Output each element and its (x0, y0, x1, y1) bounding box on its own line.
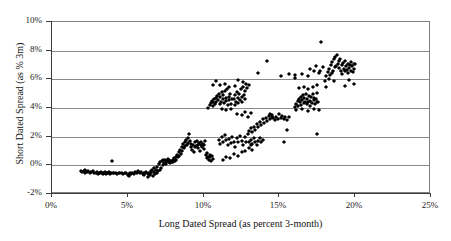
y-axis-line (51, 21, 52, 193)
y-tick-mark (46, 164, 51, 165)
data-point (342, 84, 346, 88)
data-point (321, 65, 325, 69)
data-point (319, 40, 323, 44)
data-point (242, 135, 246, 139)
data-point (192, 150, 196, 154)
data-point (311, 85, 315, 89)
data-point (314, 64, 318, 68)
x-axis-title: Long Dated Spread (as percent 3-month) (51, 218, 430, 229)
gridline-y (52, 108, 429, 109)
data-point (306, 87, 310, 91)
y-tick-mark (46, 50, 51, 51)
data-point (332, 79, 336, 83)
y-tick-mark (46, 107, 51, 108)
data-point (300, 72, 304, 76)
data-point (294, 108, 298, 112)
data-point (286, 71, 290, 75)
plot-area (51, 21, 430, 193)
x-tick-label: 25% (410, 201, 450, 210)
y-tick-mark (46, 21, 51, 22)
data-point (306, 109, 310, 113)
y-axis-title: Short Dated Spread (as % 3m) (14, 14, 25, 194)
data-point (317, 108, 321, 112)
data-point (243, 97, 247, 101)
gridline-y (52, 51, 429, 52)
gridline-y (52, 165, 429, 166)
data-point (256, 71, 260, 75)
data-point (247, 83, 251, 87)
data-point (306, 74, 310, 78)
data-point (261, 137, 265, 141)
data-point (315, 132, 319, 136)
data-point (352, 82, 356, 86)
data-point (300, 107, 304, 111)
data-point (324, 84, 328, 88)
x-tick-label: 0% (31, 201, 71, 210)
data-point (318, 69, 322, 73)
x-tick-label: 5% (107, 201, 147, 210)
x-tick-mark (278, 193, 279, 197)
data-point (245, 114, 249, 118)
y-tick-mark (46, 78, 51, 79)
x-tick-label: 20% (334, 201, 374, 210)
x-axis-line (51, 193, 430, 194)
data-point (315, 83, 319, 87)
data-point (264, 59, 268, 63)
data-point (282, 140, 286, 144)
data-point (239, 113, 243, 117)
x-tick-mark (51, 193, 52, 197)
data-point (233, 145, 237, 149)
x-tick-label: 10% (183, 201, 223, 210)
data-point (315, 91, 319, 95)
data-point (187, 132, 191, 136)
data-point (236, 154, 240, 158)
data-point (110, 159, 114, 163)
data-point (255, 142, 259, 146)
x-tick-label: 15% (258, 201, 298, 210)
data-point (223, 82, 227, 86)
data-point (327, 76, 331, 80)
data-point (211, 83, 215, 87)
data-point (312, 69, 316, 73)
y-tick-mark (46, 136, 51, 137)
x-tick-mark (430, 193, 431, 197)
data-point (242, 109, 246, 113)
data-point (227, 85, 231, 89)
data-point (285, 128, 289, 132)
data-point (248, 111, 252, 115)
data-point (347, 78, 351, 82)
data-point (235, 112, 239, 116)
data-point (230, 135, 234, 139)
data-point (233, 84, 237, 88)
data-point (250, 147, 254, 151)
data-point (203, 139, 207, 143)
x-tick-mark (127, 193, 128, 197)
x-tick-mark (203, 193, 204, 197)
data-point (243, 149, 247, 153)
x-tick-mark (354, 193, 355, 197)
data-point (198, 149, 202, 153)
data-point (353, 61, 357, 65)
scatter-chart: -2%0%2%4%6%8%10% 0%5%10%15%20%25% Long D… (0, 0, 451, 241)
data-point (228, 92, 232, 96)
data-point (279, 74, 283, 78)
data-point (338, 56, 342, 60)
data-point (228, 156, 232, 160)
